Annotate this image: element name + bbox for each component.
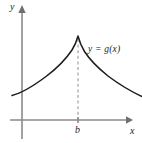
- x-tick-label-b: b: [75, 125, 80, 135]
- curve-label-y-equals-g-of-x: y = g(x): [88, 45, 120, 55]
- y-axis-label: y: [10, 2, 14, 12]
- function-curve-g: [12, 36, 142, 97]
- y-axis-arrowhead: [18, 5, 25, 13]
- x-axis-arrowhead: [126, 116, 133, 124]
- graph-figure: y x b y = g(x): [0, 0, 142, 143]
- x-axis-label: x: [130, 126, 134, 136]
- graph-canvas: [0, 0, 142, 143]
